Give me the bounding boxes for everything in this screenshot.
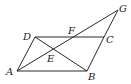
label-f: F bbox=[67, 25, 76, 36]
segment-bc bbox=[87, 37, 104, 71]
label-g: G bbox=[119, 3, 127, 14]
segment-db bbox=[35, 37, 87, 71]
label-b: B bbox=[87, 71, 95, 82]
segment-ag bbox=[17, 10, 118, 71]
label-a: A bbox=[5, 66, 13, 77]
label-e: E bbox=[46, 53, 55, 64]
geometry-diagram: A B C D E F G bbox=[0, 0, 131, 84]
label-d: D bbox=[22, 31, 31, 42]
label-c: C bbox=[106, 34, 114, 45]
